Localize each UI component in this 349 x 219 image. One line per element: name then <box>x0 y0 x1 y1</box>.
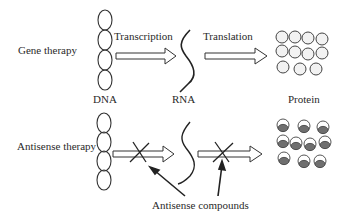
transcription-arrow-icon <box>116 48 176 64</box>
transcription-label: Transcription <box>114 31 173 42</box>
rna-strand-icon <box>180 30 194 92</box>
translation-arrow-icon <box>205 48 267 64</box>
dna-helix-icon <box>97 113 111 190</box>
dna-helix-icon <box>98 10 112 90</box>
bound-protein-cluster-icon <box>277 119 331 168</box>
protein-label: Protein <box>288 94 320 105</box>
rna-label: RNA <box>172 94 195 105</box>
rna-strand-icon <box>178 122 194 184</box>
dna-label: DNA <box>93 94 117 105</box>
gene-therapy-label: Gene therapy <box>18 45 77 56</box>
translation-label: Translation <box>203 31 253 42</box>
antisense-therapy-label: Antisense therapy <box>17 141 96 152</box>
blocked-translation-arrow-icon <box>198 146 262 162</box>
antisense-compounds-label: Antisense compounds <box>152 200 249 211</box>
diagram-canvas <box>0 0 349 219</box>
protein-cluster-icon <box>276 31 328 75</box>
